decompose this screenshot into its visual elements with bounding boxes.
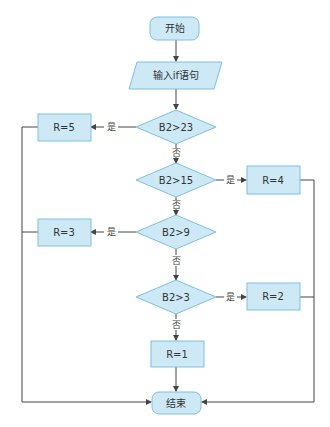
- d4-label: B2>3: [162, 292, 190, 303]
- edge-label-d1-no: 否: [172, 148, 181, 158]
- d3-label: B2>9: [162, 227, 190, 238]
- flowchart: 是 否 是 否 是 否 是 否 开始 输入if语句 B2>23 R=5 B2>1…: [0, 0, 330, 427]
- edge-label-d4-no: 否: [172, 320, 181, 330]
- d1-label: B2>23: [159, 122, 193, 133]
- edge-label-d3-no: 否: [172, 256, 181, 266]
- r5-label: R=5: [53, 122, 75, 133]
- d2-label: B2>15: [159, 175, 193, 186]
- input-label: 输入if语句: [153, 69, 199, 81]
- r2-label: R=2: [262, 291, 284, 302]
- start-label: 开始: [165, 22, 185, 34]
- end-label: 结束: [166, 397, 186, 409]
- edge-label-d3-yes: 是: [107, 227, 116, 237]
- edge-label-d2-no: 否: [172, 200, 181, 210]
- r1-label: R=1: [166, 349, 188, 360]
- r4-label: R=4: [262, 175, 284, 186]
- edge-label-d1-yes: 是: [107, 122, 116, 132]
- edge-label-d4-yes: 是: [226, 292, 235, 302]
- r3-label: R=3: [53, 227, 75, 238]
- edge-label-d2-yes: 是: [226, 175, 235, 185]
